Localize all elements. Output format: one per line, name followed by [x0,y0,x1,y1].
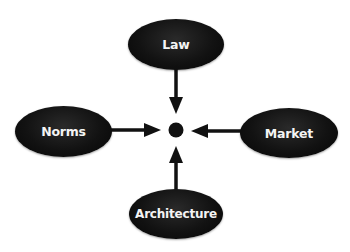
arrow-architecture-to-center [169,146,183,190]
node-norms-label: Norms [41,124,86,139]
node-architecture: Architecture [129,189,223,239]
center-dot [169,123,184,138]
arrow-market-to-center [191,124,242,138]
node-norms: Norms [15,106,112,157]
node-market: Market [240,108,338,158]
arrow-law-to-center [169,69,183,114]
node-law-label: Law [162,37,189,52]
regulation-diagram: Law Norms Market Architecture [0,0,350,252]
node-market-label: Market [265,126,313,141]
node-architecture-label: Architecture [135,207,217,221]
node-law: Law [128,19,224,70]
arrow-norms-to-center [110,123,161,137]
